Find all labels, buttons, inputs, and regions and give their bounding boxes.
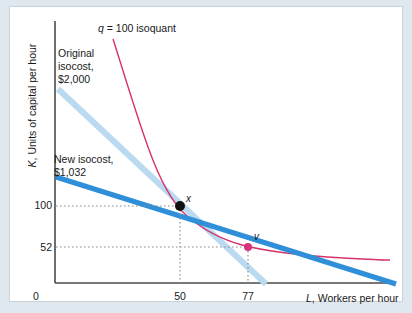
new-isocost-annotation: New isocost, $1,032 [54,153,114,179]
original-isocost-annotation-line3: $2,000 [58,73,94,86]
x-tick-label-50: 50 [170,290,190,302]
data-point-x[interactable] [175,201,185,211]
new-isocost-line [56,177,396,284]
origin-label: 0 [30,290,42,302]
y-tick-label-52: 52 [22,241,52,253]
y-axis-title: K, Units of capital per hour [26,31,39,181]
data-point-v-label: v [254,231,259,244]
original-isocost-annotation-line2: isocost, [58,60,94,73]
x-tick-label-77: 77 [238,290,258,302]
figure-container: K, Units of capital per hour L, Workers … [0,0,412,313]
x-axis-title: L, Workers per hour [306,292,399,305]
chart-panel: K, Units of capital per hour L, Workers … [9,6,403,302]
isoquant-annotation: q = 100 isoquant [98,22,176,35]
y-tick-label-100: 100 [22,199,52,211]
isoquant-annotation-text: = 100 isoquant [104,22,176,34]
y-axis-title-symbol: K [26,160,38,167]
x-axis-title-text: , Workers per hour [312,292,399,304]
data-point-x-label: x [186,193,191,206]
original-isocost-annotation-line1: Original [58,47,94,60]
isoquant-curve [113,39,390,260]
new-isocost-annotation-line2: $1,032 [54,166,114,179]
data-point-v[interactable] [244,243,252,251]
new-isocost-annotation-line1: New isocost, [54,153,114,166]
original-isocost-annotation: Original isocost, $2,000 [58,47,94,86]
y-axis-title-text: , Units of capital per hour [26,44,38,161]
